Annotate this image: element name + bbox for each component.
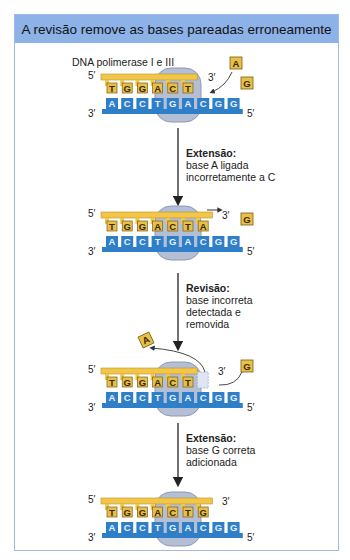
- svg-text:3′: 3′: [208, 72, 216, 83]
- svg-text:C: C: [124, 522, 131, 533]
- primer-backbone: [101, 498, 212, 504]
- svg-text:T: T: [185, 507, 191, 518]
- svg-text:A: A: [154, 377, 161, 388]
- step-3-title: Extensão:: [186, 432, 236, 444]
- svg-text:T: T: [185, 377, 191, 388]
- step-2-text: Revisão: base incorreta detectada e remo…: [186, 282, 253, 330]
- template-backbone: [102, 109, 243, 114]
- svg-text:A: A: [154, 221, 161, 232]
- step-3-text: Extensão: base G correta adicionada: [186, 432, 255, 468]
- svg-text:C: C: [139, 236, 146, 247]
- svg-text:G: G: [230, 392, 237, 403]
- svg-text:G: G: [139, 83, 146, 94]
- svg-text:5′: 5′: [88, 70, 96, 81]
- svg-text:T: T: [109, 507, 115, 518]
- svg-text:C: C: [124, 392, 131, 403]
- svg-text:G: G: [243, 214, 250, 225]
- step-1-text: Extensão: base A ligada incorretamente a…: [186, 147, 275, 183]
- svg-text:T: T: [109, 221, 115, 232]
- svg-text:5′: 5′: [247, 246, 255, 257]
- svg-text:A: A: [109, 522, 116, 533]
- svg-text:5′: 5′: [88, 494, 96, 505]
- svg-text:T: T: [185, 221, 191, 232]
- primer-backbone: [101, 212, 212, 218]
- step-3-line-2: adicionada: [186, 456, 237, 468]
- svg-text:G: G: [230, 236, 237, 247]
- svg-text:G: G: [124, 221, 131, 232]
- svg-text:C: C: [200, 236, 207, 247]
- svg-text:C: C: [169, 221, 176, 232]
- free-base-a: A: [230, 57, 242, 69]
- svg-text:5′: 5′: [247, 108, 255, 119]
- dna-diagram-3: TGGACTGACCTGACGG5′3′3′5′: [88, 492, 255, 546]
- svg-text:C: C: [139, 522, 146, 533]
- svg-text:G: G: [230, 522, 237, 533]
- svg-text:C: C: [124, 236, 131, 247]
- svg-text:5′: 5′: [247, 402, 255, 413]
- step-3-line-1: base G correta: [186, 444, 255, 456]
- dna-diagram-1: TGGACTAACCTGACGG5′3′3′5′: [88, 206, 255, 260]
- svg-text:T: T: [155, 236, 161, 247]
- removed-base-a: A: [138, 332, 154, 348]
- svg-text:C: C: [169, 377, 176, 388]
- primer-backbone: [101, 74, 197, 80]
- template-backbone: [102, 533, 243, 538]
- svg-text:A: A: [185, 522, 192, 533]
- svg-text:A: A: [200, 221, 207, 232]
- svg-text:5′: 5′: [88, 208, 96, 219]
- svg-text:A: A: [109, 236, 116, 247]
- svg-text:C: C: [200, 392, 207, 403]
- svg-text:G: G: [139, 221, 146, 232]
- svg-text:T: T: [155, 522, 161, 533]
- svg-text:G: G: [169, 392, 176, 403]
- svg-text:G: G: [215, 392, 222, 403]
- svg-text:G: G: [169, 236, 176, 247]
- svg-text:A: A: [233, 58, 240, 69]
- step-2-line-3: removida: [186, 318, 229, 330]
- svg-text:T: T: [109, 377, 115, 388]
- svg-text:C: C: [139, 392, 146, 403]
- svg-text:A: A: [185, 236, 192, 247]
- svg-text:G: G: [243, 361, 250, 372]
- free-base-g: G: [241, 360, 253, 372]
- svg-text:T: T: [109, 83, 115, 94]
- svg-text:G: G: [169, 522, 176, 533]
- svg-text:C: C: [169, 83, 176, 94]
- svg-text:G: G: [215, 98, 222, 109]
- step-1-line-2: incorretamente a C: [186, 171, 275, 183]
- svg-text:A: A: [154, 83, 161, 94]
- step-2-line-1: base incorreta: [186, 294, 253, 306]
- dna-proofreading-diagram: TGGACTACCTGACGG5′3′3′5′AGTGGACTAACCTGACG…: [0, 0, 350, 560]
- svg-text:G: G: [124, 377, 131, 388]
- svg-text:T: T: [155, 392, 161, 403]
- svg-text:A: A: [185, 392, 192, 403]
- free-base-g: G: [241, 213, 253, 225]
- svg-text:C: C: [169, 507, 176, 518]
- free-base-g: G: [241, 77, 253, 89]
- svg-text:3′: 3′: [222, 496, 230, 507]
- svg-text:G: G: [139, 377, 146, 388]
- step-1-title: Extensão:: [186, 147, 236, 159]
- svg-text:G: G: [124, 507, 131, 518]
- svg-text:T: T: [155, 98, 161, 109]
- template-backbone: [102, 247, 243, 252]
- svg-text:A: A: [109, 392, 116, 403]
- svg-text:3′: 3′: [218, 366, 226, 377]
- svg-text:C: C: [139, 98, 146, 109]
- svg-text:G: G: [124, 83, 131, 94]
- template-backbone: [102, 403, 243, 408]
- svg-text:A: A: [109, 98, 116, 109]
- step-1-line-1: base A ligada: [186, 159, 248, 171]
- svg-text:G: G: [139, 507, 146, 518]
- svg-text:C: C: [200, 522, 207, 533]
- svg-text:3′: 3′: [88, 108, 96, 119]
- svg-text:5′: 5′: [88, 364, 96, 375]
- dna-diagram-2: TGGACTACCTGACGG5′3′3′5′: [88, 362, 255, 416]
- svg-text:3′: 3′: [222, 210, 230, 221]
- svg-text:A: A: [185, 98, 192, 109]
- svg-text:5′: 5′: [247, 532, 255, 543]
- step-2-line-2: detectada e: [186, 306, 241, 318]
- svg-text:G: G: [243, 78, 250, 89]
- svg-text:T: T: [185, 83, 191, 94]
- step-2-title: Revisão:: [186, 282, 230, 294]
